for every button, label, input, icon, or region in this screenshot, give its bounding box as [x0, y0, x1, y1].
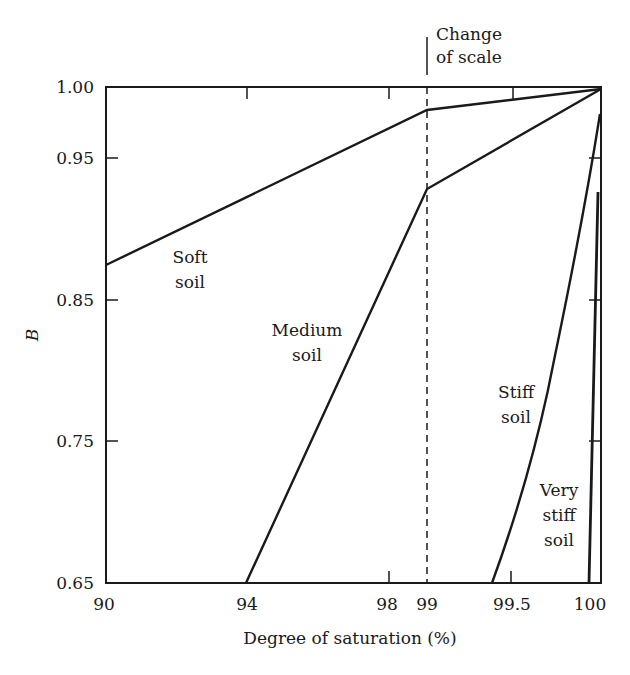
x-axis-title: Degree of saturation (%)	[243, 628, 456, 648]
chart-canvas: 1.00 0.95 0.85 0.75 0.65 90 94 98 99 99.…	[0, 0, 630, 675]
x-tick-99.5: 99.5	[493, 594, 531, 614]
y-tick-0.75: 0.75	[56, 431, 94, 451]
label-stiff-line1: Stiff	[498, 382, 536, 402]
y-tick-0.85: 0.85	[56, 290, 94, 310]
label-soft-line1: Soft	[172, 247, 207, 267]
label-medium-line1: Medium	[272, 320, 343, 340]
y-tick-0.65: 0.65	[56, 573, 94, 593]
x-tick-98: 98	[376, 594, 398, 614]
label-very-stiff-line3: soil	[544, 530, 574, 550]
y-ticks-left	[106, 158, 118, 441]
series-soft-soil	[106, 89, 601, 265]
change-of-scale-label-line2: of scale	[436, 47, 502, 67]
x-tick-100: 100	[574, 594, 606, 614]
x-tick-94: 94	[236, 594, 258, 614]
series-very-stiff-soil	[589, 192, 598, 583]
label-soft-line2: soil	[175, 272, 205, 292]
y-tick-0.95: 0.95	[56, 148, 94, 168]
x-tick-90: 90	[93, 594, 115, 614]
label-medium-line2: soil	[292, 345, 322, 365]
y-axis-title: B	[22, 329, 42, 343]
change-of-scale-label-line1: Change	[436, 24, 502, 44]
label-very-stiff-line1: Very	[539, 480, 579, 500]
plot-frame	[106, 87, 601, 583]
x-tick-99: 99	[416, 594, 438, 614]
label-very-stiff-line2: stiff	[542, 505, 577, 525]
y-tick-1.00: 1.00	[56, 77, 94, 97]
x-ticks-top	[247, 87, 513, 99]
label-stiff-line2: soil	[501, 407, 531, 427]
